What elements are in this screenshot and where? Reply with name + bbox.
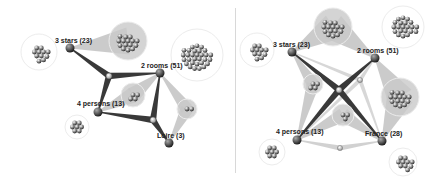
node-label-4persons: 4 persons (13) xyxy=(77,100,124,108)
node-label-3stars: 3 stars (23) xyxy=(55,37,92,45)
right-diagram-panel xyxy=(224,0,448,187)
node-label-3stars: 3 stars (23) xyxy=(273,41,310,49)
node-label-2rooms: 2 rooms (51) xyxy=(357,47,399,55)
node-label-loire: Loire (3) xyxy=(157,132,185,140)
node-label-4persons: 4 persons (13) xyxy=(276,128,323,136)
right-network-graph xyxy=(224,0,448,187)
left-network-graph xyxy=(0,0,224,187)
node-label-2rooms: 2 rooms (51) xyxy=(141,62,183,70)
left-diagram-panel xyxy=(0,0,224,187)
node-label-france: France (28) xyxy=(365,130,402,138)
